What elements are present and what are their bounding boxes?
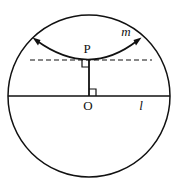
- right-angle-mark-P: [82, 60, 89, 67]
- label-m: m: [121, 24, 130, 39]
- arrow-left: [33, 38, 41, 46]
- arrow-right: [134, 38, 142, 46]
- right-angle-mark-O: [89, 89, 96, 96]
- geometry-canvas: P O m l: [0, 0, 178, 178]
- label-l: l: [139, 98, 143, 113]
- label-O: O: [83, 98, 92, 113]
- geometry-figure: P O m l: [0, 0, 178, 178]
- label-P: P: [83, 41, 90, 56]
